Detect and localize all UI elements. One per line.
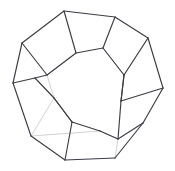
dodecahedron-wireframe xyxy=(0,0,175,171)
figure-container xyxy=(0,0,175,171)
figure-background xyxy=(0,0,175,171)
